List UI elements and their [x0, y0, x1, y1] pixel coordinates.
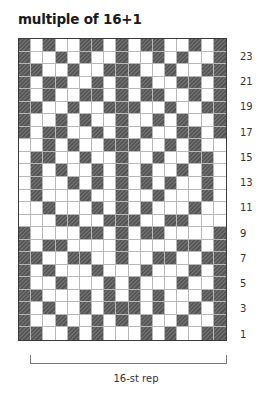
light-stitch-cell: [31, 114, 43, 127]
dark-stitch-cell: [214, 52, 226, 65]
dark-stitch-cell: [165, 252, 177, 265]
light-stitch-cell: [129, 52, 141, 65]
dark-stitch-cell: [214, 64, 226, 77]
dark-stitch-cell: [43, 152, 55, 165]
dark-stitch-cell: [92, 327, 104, 340]
light-stitch-cell: [56, 252, 68, 265]
light-stitch-cell: [153, 177, 165, 190]
light-stitch-cell: [202, 265, 214, 278]
repeat-label: 16-st rep: [0, 373, 268, 384]
dark-stitch-cell: [31, 64, 43, 77]
light-stitch-cell: [104, 252, 116, 265]
light-stitch-cell: [129, 240, 141, 253]
light-stitch-cell: [31, 52, 43, 65]
dark-stitch-cell: [177, 127, 189, 140]
dark-stitch-cell: [19, 127, 31, 140]
dark-stitch-cell: [129, 290, 141, 303]
dark-stitch-cell: [165, 139, 177, 152]
light-stitch-cell: [189, 227, 201, 240]
light-stitch-cell: [189, 190, 201, 203]
dark-stitch-cell: [116, 102, 128, 115]
dark-stitch-cell: [153, 39, 165, 52]
light-stitch-cell: [153, 265, 165, 278]
dark-stitch-cell: [177, 277, 189, 290]
dark-stitch-cell: [202, 64, 214, 77]
dark-stitch-cell: [141, 164, 153, 177]
dark-stitch-cell: [116, 315, 128, 328]
dark-stitch-cell: [129, 277, 141, 290]
light-stitch-cell: [141, 215, 153, 228]
light-stitch-cell: [31, 139, 43, 152]
light-stitch-cell: [189, 290, 201, 303]
light-stitch-cell: [202, 89, 214, 102]
dark-stitch-cell: [116, 89, 128, 102]
row-label: 19: [240, 101, 253, 112]
dark-stitch-cell: [80, 190, 92, 203]
light-stitch-cell: [177, 190, 189, 203]
dark-stitch-cell: [141, 327, 153, 340]
light-stitch-cell: [129, 177, 141, 190]
light-stitch-cell: [92, 102, 104, 115]
dark-stitch-cell: [153, 89, 165, 102]
row-label: 13: [240, 177, 253, 188]
dark-stitch-cell: [56, 277, 68, 290]
light-stitch-cell: [129, 252, 141, 265]
light-stitch-cell: [68, 190, 80, 203]
dark-stitch-cell: [189, 302, 201, 315]
dark-stitch-cell: [153, 252, 165, 265]
dark-stitch-cell: [153, 227, 165, 240]
dark-stitch-cell: [189, 265, 201, 278]
light-stitch-cell: [68, 127, 80, 140]
light-stitch-cell: [68, 77, 80, 90]
dark-stitch-cell: [43, 127, 55, 140]
light-stitch-cell: [19, 164, 31, 177]
dark-stitch-cell: [189, 202, 201, 215]
light-stitch-cell: [104, 327, 116, 340]
dark-stitch-cell: [189, 127, 201, 140]
light-stitch-cell: [177, 202, 189, 215]
dark-stitch-cell: [116, 114, 128, 127]
light-stitch-cell: [43, 227, 55, 240]
light-stitch-cell: [214, 215, 226, 228]
light-stitch-cell: [19, 202, 31, 215]
light-stitch-cell: [68, 227, 80, 240]
light-stitch-cell: [104, 177, 116, 190]
light-stitch-cell: [104, 127, 116, 140]
dark-stitch-cell: [116, 252, 128, 265]
light-stitch-cell: [189, 177, 201, 190]
dark-stitch-cell: [68, 64, 80, 77]
light-stitch-cell: [68, 302, 80, 315]
light-stitch-cell: [165, 190, 177, 203]
light-stitch-cell: [141, 52, 153, 65]
dark-stitch-cell: [116, 39, 128, 52]
dark-stitch-cell: [104, 215, 116, 228]
light-stitch-cell: [104, 240, 116, 253]
light-stitch-cell: [80, 102, 92, 115]
light-stitch-cell: [202, 139, 214, 152]
light-stitch-cell: [129, 190, 141, 203]
light-stitch-cell: [68, 39, 80, 52]
light-stitch-cell: [153, 315, 165, 328]
dark-stitch-cell: [202, 177, 214, 190]
light-stitch-cell: [19, 139, 31, 152]
dark-stitch-cell: [56, 52, 68, 65]
light-stitch-cell: [104, 152, 116, 165]
light-stitch-cell: [153, 77, 165, 90]
light-stitch-cell: [80, 215, 92, 228]
light-stitch-cell: [56, 39, 68, 52]
light-stitch-cell: [56, 152, 68, 165]
row-label: 9: [240, 228, 246, 239]
light-stitch-cell: [31, 240, 43, 253]
dark-stitch-cell: [68, 102, 80, 115]
dark-stitch-cell: [116, 164, 128, 177]
dark-stitch-cell: [92, 39, 104, 52]
light-stitch-cell: [141, 64, 153, 77]
dark-stitch-cell: [177, 164, 189, 177]
dark-stitch-cell: [116, 190, 128, 203]
dark-stitch-cell: [19, 227, 31, 240]
dark-stitch-cell: [56, 240, 68, 253]
dark-stitch-cell: [177, 315, 189, 328]
light-stitch-cell: [153, 164, 165, 177]
dark-stitch-cell: [214, 302, 226, 315]
dark-stitch-cell: [43, 39, 55, 52]
